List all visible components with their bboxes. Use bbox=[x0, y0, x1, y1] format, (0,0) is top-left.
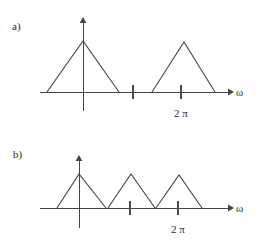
panel-b-label: b) bbox=[13, 148, 23, 161]
panel-a-omega-label: ω bbox=[236, 86, 243, 98]
panel-b-omega-label: ω bbox=[236, 202, 243, 214]
panel-a-y-axis-arrow bbox=[80, 17, 87, 23]
panel-b-triangle-baseband bbox=[57, 174, 106, 208]
panel-a-tick-2pi-label: 2 π bbox=[174, 107, 188, 119]
figure-root: a) 2 π ω b) bbox=[0, 0, 262, 249]
panel-b-triangle-replica-2 bbox=[156, 175, 202, 208]
panel-b-y-axis-arrow bbox=[76, 155, 83, 161]
figure-canvas: a) 2 π ω b) bbox=[0, 0, 262, 249]
panel-a-label: a) bbox=[12, 20, 21, 33]
panel-b: b) 2 π ω bbox=[13, 148, 243, 235]
panel-a-triangle-replica-2pi bbox=[152, 42, 215, 92]
panel-a-x-axis-arrow bbox=[228, 89, 234, 96]
panel-b-tick-2pi-label: 2 π bbox=[171, 223, 185, 235]
panel-b-triangle-replica-1 bbox=[108, 174, 155, 208]
panel-a: a) 2 π ω bbox=[12, 17, 243, 119]
panel-b-x-axis-arrow bbox=[228, 205, 234, 212]
